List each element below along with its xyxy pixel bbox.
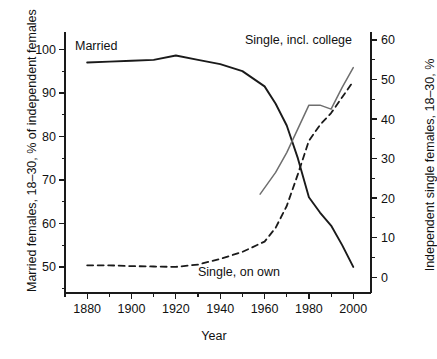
y-axis-right-title: Independent single females, 18–30, % — [423, 40, 437, 290]
x-axis-tick-label: 1900 — [118, 302, 146, 316]
y-axis-left-tick-label: 80 — [42, 130, 56, 144]
y-axis-right-tick-label: 10 — [381, 231, 395, 245]
y-axis-right-tick-label: 60 — [381, 33, 395, 47]
single-incl-college-label: Single, incl. college — [245, 33, 352, 47]
y-axis-right-tick-label: 20 — [381, 192, 395, 206]
series-line-single-on-own — [87, 81, 353, 266]
y-axis-right-tick-label: 30 — [381, 152, 395, 166]
x-axis-tick-label: 1940 — [206, 302, 234, 316]
series-line-single-incl-college — [260, 68, 353, 195]
x-axis-tick-label: 1960 — [251, 302, 279, 316]
series-line-married — [87, 55, 353, 266]
x-axis-tick-label: 1880 — [73, 302, 101, 316]
y-axis-right-tick-label: 0 — [381, 271, 388, 285]
y-axis-left-tick-label: 70 — [42, 173, 56, 187]
y-axis-right-tick-label: 40 — [381, 113, 395, 127]
x-axis-title: Year — [0, 329, 428, 343]
x-axis-tick-label: 1920 — [162, 302, 190, 316]
x-axis-tick-label: 2000 — [339, 302, 367, 316]
x-axis-tick-label: 1980 — [295, 302, 323, 316]
y-axis-left-tick-label: 60 — [42, 217, 56, 231]
y-axis-left-tick-label: 90 — [42, 86, 56, 100]
y-axis-left-title: Married females, 18–30, % of independent… — [25, 42, 39, 292]
married-label: Married — [75, 39, 117, 53]
y-axis-left-tick-label: 50 — [42, 260, 56, 274]
single-on-own-label: Single, on own — [198, 265, 280, 279]
y-axis-right-tick-label: 50 — [381, 73, 395, 87]
